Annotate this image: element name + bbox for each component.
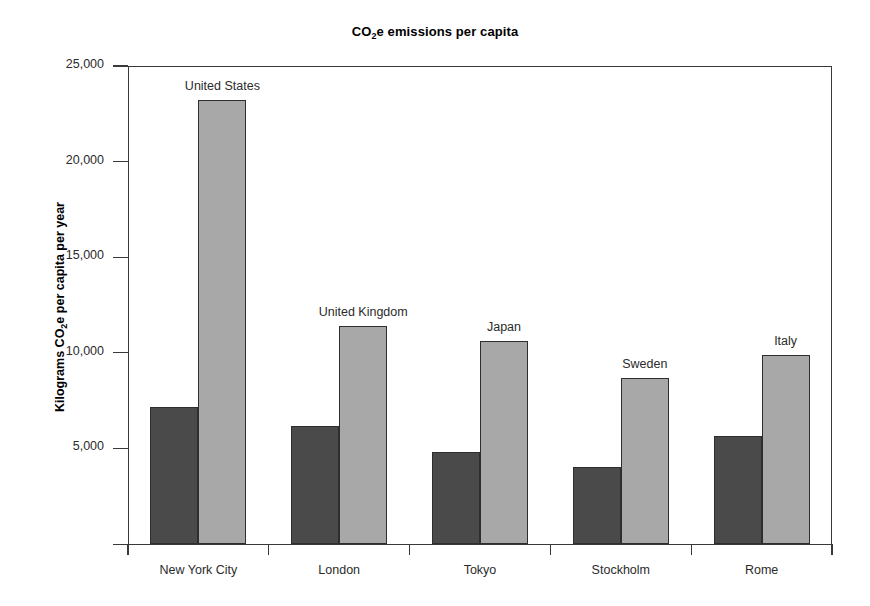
x-axis-separator-tick <box>268 544 269 555</box>
bar-annotation-country: United Kingdom <box>319 305 408 319</box>
bar-city <box>432 452 480 544</box>
chart-title-suffix: e emissions per capita <box>377 24 519 39</box>
chart-title-prefix: CO <box>352 24 372 39</box>
y-axis-tick-label-text: 25,000 <box>32 57 104 71</box>
y-axis-tick-label: 5,000 <box>28 439 104 455</box>
bar-city <box>291 426 339 544</box>
x-axis-category-label: Tokyo <box>464 563 497 577</box>
bar-annotation-country: Italy <box>774 334 797 348</box>
chart-title: CO2e emissions per capita <box>0 24 870 39</box>
bar-country <box>480 341 528 544</box>
bar-city <box>714 436 762 544</box>
x-axis-separator-tick <box>831 544 832 555</box>
chart-title-subscript: 2 <box>371 31 376 41</box>
x-axis-category-label: Rome <box>745 563 778 577</box>
bar-annotation-country: Sweden <box>622 357 667 371</box>
y-axis-tick <box>113 65 128 66</box>
x-axis-separator-tick <box>550 544 551 555</box>
y-axis-tick-label-text: 10,000 <box>32 344 104 358</box>
bar-annotation-country: United States <box>185 79 260 93</box>
y-axis-tick-label-text: 5,000 <box>32 439 104 453</box>
x-axis-separator-tick <box>409 544 410 555</box>
y-axis-tick-label: 10,000 <box>28 344 104 360</box>
y-axis-title-prefix: Kilograms CO <box>53 329 67 412</box>
x-axis-category-label: London <box>318 563 360 577</box>
y-axis-tick <box>113 448 128 449</box>
bar-country <box>621 378 669 544</box>
y-axis-tick-label: 25,000 <box>28 57 104 73</box>
y-axis-tick-label-text: 20,000 <box>32 153 104 167</box>
x-axis-category-label: Stockholm <box>592 563 650 577</box>
bar-annotation-country: Japan <box>487 320 521 334</box>
y-axis-tick-label: 20,000 <box>28 153 104 169</box>
y-axis-tick-label-text: 15,000 <box>32 248 104 262</box>
x-axis-separator-tick <box>691 544 692 555</box>
bar-city <box>573 467 621 544</box>
bar-city <box>150 407 198 544</box>
x-axis-category-label: New York City <box>159 563 237 577</box>
bar-country <box>762 355 810 544</box>
bar-country <box>339 326 387 544</box>
bar-country <box>198 100 246 544</box>
y-axis-tick <box>113 161 128 162</box>
x-axis-separator-tick <box>127 544 128 555</box>
y-axis-tick <box>113 352 128 353</box>
y-axis-title-subscript: 2 <box>59 324 69 329</box>
chart-figure: CO2e emissions per capita Kilograms CO2e… <box>0 0 870 606</box>
y-axis-tick <box>113 257 128 258</box>
y-axis-tick-label: 15,000 <box>28 248 104 264</box>
x-axis-line <box>113 544 832 545</box>
